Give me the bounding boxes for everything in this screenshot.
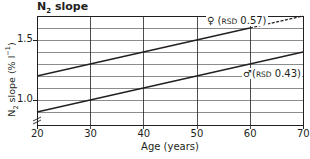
x-axis-label: Age (years): [0, 141, 310, 152]
male-symbol-icon: ♂: [243, 68, 252, 79]
male-line: [37, 52, 303, 112]
y-tick-label: 1.5: [17, 33, 33, 44]
y-tick-label: 1.0: [17, 93, 33, 104]
x-tick-label: 20: [31, 128, 44, 139]
x-tick-label: 60: [244, 128, 257, 139]
y-axis-label: N2 slope (% l−1): [4, 30, 19, 130]
series-lines: [37, 16, 303, 112]
female-symbol-icon: ♀: [207, 15, 214, 26]
x-tick-label: 50: [191, 128, 204, 139]
x-tick-label: 30: [84, 128, 97, 139]
x-tick-label: 70: [297, 128, 310, 139]
x-tick-label: 40: [137, 128, 150, 139]
male-annotation: ♂(RSD 0.43): [242, 68, 302, 79]
female-annotation: ♀ (RSD 0.57): [206, 15, 268, 26]
